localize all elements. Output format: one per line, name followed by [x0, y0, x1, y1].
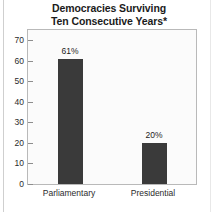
chart-title: Democracies Surviving Ten Consecutive Ye…	[14, 2, 204, 27]
y-axis-tick	[28, 122, 33, 123]
y-axis-tick-label: 40	[15, 97, 24, 107]
bar-parliamentary	[58, 59, 83, 184]
y-axis-tick-label: 30	[15, 117, 24, 127]
y-axis-tick-label: 60	[15, 56, 24, 66]
x-axis-label: Presidential	[131, 188, 175, 198]
y-axis-tick-label: 10	[15, 158, 24, 168]
right-edge-rule	[210, 0, 211, 212]
y-axis-tick-label: 20	[15, 138, 24, 148]
y-axis-tick-label: 50	[15, 76, 24, 86]
chart-figure: Democracies Surviving Ten Consecutive Ye…	[0, 0, 214, 212]
chart-title-line-2: Ten Consecutive Years*	[14, 15, 204, 28]
x-axis-label: Parliamentary	[43, 188, 95, 198]
left-edge-rule	[3, 0, 4, 212]
y-axis-tick	[28, 40, 33, 41]
bar-presidential	[142, 143, 167, 184]
chart-title-line-1: Democracies Surviving	[14, 2, 204, 15]
y-axis-tick	[28, 61, 33, 62]
bar-value-label: 61%	[61, 46, 78, 56]
y-axis-tick-label: 70	[15, 35, 24, 45]
plot-area: 01020304050607061%20%	[28, 30, 196, 184]
y-axis-tick-label: 0	[19, 179, 24, 189]
bar-value-label: 20%	[145, 130, 162, 140]
y-axis-tick	[28, 102, 33, 103]
y-axis-tick	[28, 143, 33, 144]
plot-frame: 01020304050607061%20%	[27, 29, 197, 185]
y-axis-tick	[28, 184, 33, 185]
y-axis-tick	[28, 163, 33, 164]
y-axis-tick	[28, 81, 33, 82]
